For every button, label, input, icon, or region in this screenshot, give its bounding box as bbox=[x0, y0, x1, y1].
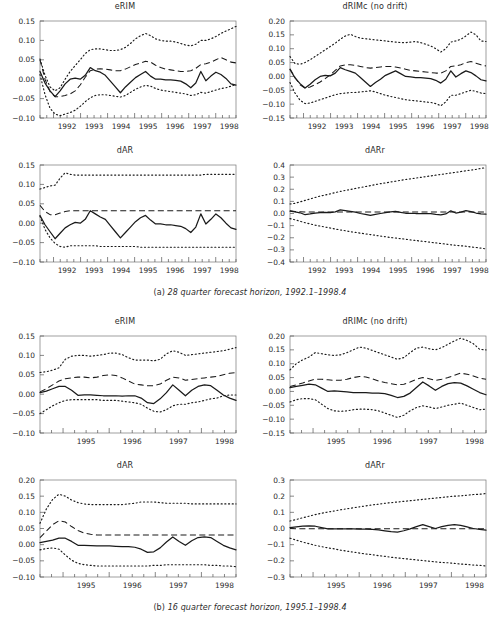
block-spacer bbox=[0, 297, 500, 315]
series-actual bbox=[290, 210, 486, 216]
svg-text:0.05: 0.05 bbox=[19, 370, 36, 379]
figure-root: eRIM−0.10−0.050.000.050.100.151992199319… bbox=[0, 0, 500, 644]
svg-text:1998: 1998 bbox=[215, 437, 234, 446]
panel-row: eRIM−0.10−0.050.000.050.100.151992199319… bbox=[0, 0, 500, 144]
svg-text:−0.10: −0.10 bbox=[12, 258, 35, 267]
svg-text:1995: 1995 bbox=[327, 581, 346, 590]
svg-text:1992: 1992 bbox=[308, 266, 327, 275]
panel-erim: eRIM−0.10−0.050.000.050.100.151995199619… bbox=[0, 315, 250, 459]
svg-text:1997: 1997 bbox=[419, 581, 438, 590]
svg-text:−0.05: −0.05 bbox=[262, 401, 285, 410]
plot-area: −0.10−0.050.000.050.100.1519951996199719… bbox=[0, 328, 250, 459]
svg-text:0.05: 0.05 bbox=[19, 524, 36, 533]
series-upper-band bbox=[290, 32, 486, 64]
panel-dar: dAR−0.10−0.050.000.050.100.150.201995199… bbox=[0, 459, 250, 603]
svg-text:1995: 1995 bbox=[139, 266, 158, 275]
svg-text:1995: 1995 bbox=[327, 437, 346, 446]
svg-text:1993: 1993 bbox=[335, 266, 354, 275]
panel-title: eRIM bbox=[0, 0, 250, 13]
panel-title: dARr bbox=[250, 459, 500, 472]
svg-text:0.05: 0.05 bbox=[269, 373, 286, 382]
plot-area: −0.4−0.3−0.2−0.10.00.10.20.30.4199219931… bbox=[250, 157, 500, 288]
series-forecast bbox=[290, 373, 486, 386]
svg-text:1992: 1992 bbox=[58, 122, 77, 131]
svg-text:0.1: 0.1 bbox=[273, 197, 285, 206]
panel-title: dRIMc (no drift) bbox=[250, 0, 500, 13]
svg-text:0.10: 0.10 bbox=[269, 359, 286, 368]
panel-row: eRIM−0.10−0.050.000.050.100.151995199619… bbox=[0, 315, 500, 459]
series-actual bbox=[40, 385, 236, 404]
caption-text: 28 quarter forecast horizon, 1992.1–1998… bbox=[168, 288, 347, 297]
svg-text:0.05: 0.05 bbox=[19, 55, 36, 64]
svg-text:−0.2: −0.2 bbox=[267, 233, 285, 242]
series-lower-band bbox=[40, 548, 236, 567]
svg-text:1996: 1996 bbox=[123, 437, 142, 446]
svg-text:0.00: 0.00 bbox=[19, 219, 36, 228]
panel-erim: eRIM−0.10−0.050.000.050.100.151992199319… bbox=[0, 0, 250, 144]
svg-text:−0.4: −0.4 bbox=[267, 258, 285, 267]
svg-text:1994: 1994 bbox=[362, 266, 381, 275]
panel-title: dRIMc (no drift) bbox=[250, 315, 500, 328]
series-lower-band bbox=[290, 538, 486, 566]
svg-text:0.00: 0.00 bbox=[269, 387, 286, 396]
svg-text:1998: 1998 bbox=[470, 122, 489, 131]
svg-text:1995: 1995 bbox=[389, 266, 408, 275]
svg-text:−0.2: −0.2 bbox=[267, 556, 285, 565]
svg-text:1996: 1996 bbox=[166, 266, 185, 275]
svg-text:0.10: 0.10 bbox=[19, 180, 36, 189]
panel-title: dAR bbox=[0, 459, 250, 472]
svg-text:0.00: 0.00 bbox=[19, 540, 36, 549]
svg-text:1997: 1997 bbox=[193, 266, 212, 275]
block-caption: (b) 16 quarter forecast horizon, 1995.1–… bbox=[0, 603, 500, 612]
panel-title: eRIM bbox=[0, 315, 250, 328]
svg-text:1998: 1998 bbox=[470, 266, 489, 275]
svg-text:0.15: 0.15 bbox=[19, 492, 36, 501]
panel-title: dAR bbox=[0, 144, 250, 157]
svg-text:0.3: 0.3 bbox=[273, 476, 285, 485]
svg-text:−0.05: −0.05 bbox=[262, 86, 285, 95]
panel-row: dAR−0.10−0.050.000.050.100.1519921993199… bbox=[0, 144, 500, 288]
svg-text:1996: 1996 bbox=[373, 437, 392, 446]
svg-text:0.05: 0.05 bbox=[19, 199, 36, 208]
svg-text:1998: 1998 bbox=[215, 581, 234, 590]
svg-text:1992: 1992 bbox=[308, 122, 327, 131]
block-a: eRIM−0.10−0.050.000.050.100.151992199319… bbox=[0, 0, 500, 297]
svg-text:−0.10: −0.10 bbox=[262, 100, 285, 109]
svg-text:1993: 1993 bbox=[85, 266, 104, 275]
svg-text:0.00: 0.00 bbox=[19, 390, 36, 399]
svg-text:1997: 1997 bbox=[443, 266, 462, 275]
panel-title: dARr bbox=[250, 144, 500, 157]
svg-text:0.10: 0.10 bbox=[19, 36, 36, 45]
plot-area: −0.3−0.2−0.10.00.10.20.31995199619971998 bbox=[250, 472, 500, 603]
series-lower-band bbox=[290, 399, 486, 418]
svg-text:1996: 1996 bbox=[373, 581, 392, 590]
svg-text:−0.15: −0.15 bbox=[262, 114, 285, 123]
svg-text:1998: 1998 bbox=[465, 437, 484, 446]
svg-text:−0.10: −0.10 bbox=[12, 573, 35, 582]
svg-text:1998: 1998 bbox=[465, 581, 484, 590]
series-forecast bbox=[40, 521, 236, 538]
svg-text:0.10: 0.10 bbox=[269, 44, 286, 53]
svg-text:1995: 1995 bbox=[77, 437, 96, 446]
svg-text:−0.3: −0.3 bbox=[267, 245, 285, 254]
svg-text:0.2: 0.2 bbox=[273, 185, 285, 194]
series-upper-band bbox=[40, 348, 236, 373]
svg-text:1994: 1994 bbox=[112, 122, 131, 131]
series-upper-band bbox=[290, 338, 486, 370]
plot-area: −0.15−0.10−0.050.000.050.100.150.2019951… bbox=[250, 328, 500, 459]
svg-text:1993: 1993 bbox=[85, 122, 104, 131]
svg-text:0.20: 0.20 bbox=[19, 476, 36, 485]
svg-text:−0.1: −0.1 bbox=[267, 540, 285, 549]
svg-text:1992: 1992 bbox=[58, 266, 77, 275]
plot-area: −0.10−0.050.000.050.100.150.201995199619… bbox=[0, 472, 250, 603]
series-upper-band bbox=[290, 494, 486, 521]
svg-text:0.00: 0.00 bbox=[19, 75, 36, 84]
series-lower-band bbox=[290, 219, 486, 249]
svg-text:0.0: 0.0 bbox=[273, 524, 285, 533]
svg-text:1995: 1995 bbox=[139, 122, 158, 131]
svg-text:0.3: 0.3 bbox=[273, 173, 285, 182]
series-lower-band bbox=[40, 216, 236, 247]
svg-text:0.15: 0.15 bbox=[269, 30, 286, 39]
series-upper-band bbox=[40, 26, 236, 90]
svg-text:1994: 1994 bbox=[362, 122, 381, 131]
